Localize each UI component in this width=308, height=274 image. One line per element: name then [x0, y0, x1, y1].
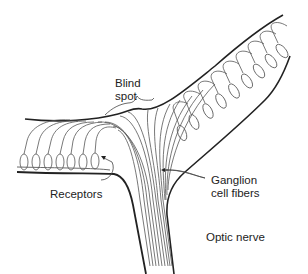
label-blind-spot: Blind spot: [115, 77, 141, 103]
label-optic-nerve: Optic nerve: [206, 231, 265, 244]
label-blind-line2: spot: [115, 90, 141, 103]
label-receptors: Receptors: [50, 188, 102, 201]
receptors-left: [20, 120, 116, 170]
label-blind-line1: Blind: [115, 77, 141, 90]
label-ganglion-line2: cell fibers: [211, 187, 260, 200]
retina-diagram: Blind spot Receptors Ganglion cell fiber…: [0, 0, 308, 274]
inner-membrane: [25, 15, 283, 121]
label-ganglion-line1: Ganglion: [211, 174, 260, 187]
label-ganglion: Ganglion cell fibers: [211, 174, 260, 200]
receptors-right: [173, 23, 290, 142]
